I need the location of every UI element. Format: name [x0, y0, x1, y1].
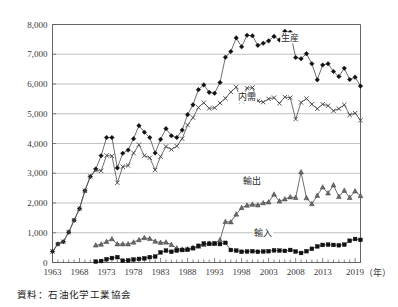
source-note: 資料：石油化学工業協会: [17, 287, 131, 301]
x-tick-label: 2013: [314, 267, 333, 277]
x-tick-label: 1983: [152, 267, 171, 277]
y-tick-label: 7,000: [27, 49, 48, 59]
x-tick-label: 1998: [233, 267, 252, 277]
y-tick-label: 4,000: [27, 139, 48, 149]
series-label-生産: 生産: [281, 32, 299, 43]
series-生産: [50, 29, 363, 254]
x-tick-label: 2003: [260, 267, 279, 277]
series-label-輸出: 輸出: [243, 175, 261, 186]
series-label-内需: 内需: [238, 91, 256, 102]
series-label-輸入: 輸入: [254, 227, 272, 238]
ethylene-supply-demand-chart: 01,0002,0003,0004,0005,0006,0007,0008,00…: [0, 0, 398, 307]
series-内需: [50, 85, 362, 254]
x-tick-label: 1993: [206, 267, 225, 277]
x-axis-unit-label: （年）: [364, 267, 391, 278]
x-tick-label: 2019: [346, 267, 365, 277]
x-tick-label: 1963: [44, 267, 63, 277]
x-tick-label: 1968: [71, 267, 90, 277]
series-輸出: [93, 169, 363, 251]
y-tick-label: 6,000: [27, 79, 48, 89]
chart-figure: 01,0002,0003,0004,0005,0006,0007,0008,00…: [0, 0, 398, 307]
x-axis-tick-labels: 1963196819731978198319881993199820032008…: [44, 267, 365, 277]
data-series-layer: [50, 29, 363, 263]
x-tick-label: 2008: [287, 267, 306, 277]
y-tick-label: 2,000: [27, 198, 48, 208]
x-tick-label: 1978: [125, 267, 144, 277]
y-tick-label: 8,000: [27, 20, 48, 30]
y-tick-label: 3,000: [27, 168, 48, 178]
y-tick-label: 5,000: [27, 109, 48, 119]
y-tick-label: 1,000: [27, 228, 48, 238]
x-tick-label: 1973: [98, 267, 117, 277]
x-tick-label: 1988: [179, 267, 198, 277]
y-axis-tick-labels: 01,0002,0003,0004,0005,0006,0007,0008,00…: [27, 20, 48, 268]
